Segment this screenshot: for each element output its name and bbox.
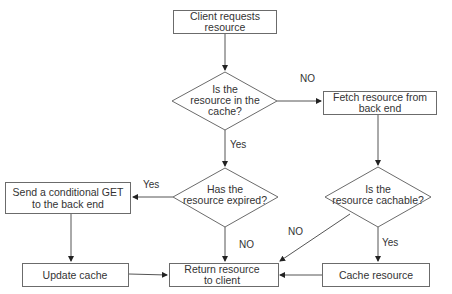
- edge-label-expired-yes: Yes: [143, 179, 159, 190]
- edge-label-incache-yes: Yes: [230, 139, 246, 150]
- edge-cachable-to-return: [280, 214, 350, 261]
- node-label-line: back end: [359, 102, 402, 114]
- flowchart-canvas: NO Yes Yes NO NO Yes Client requests res…: [0, 0, 452, 294]
- edges: NO Yes Yes NO NO Yes: [71, 33, 398, 275]
- node-label-line: resource: [205, 21, 246, 33]
- node-label-line: to client: [204, 274, 240, 286]
- node-label-line: resource cachable?: [332, 194, 424, 206]
- node-in-cache-decision: Is the resource in the cache?: [172, 72, 277, 130]
- node-label-line: cache?: [208, 105, 242, 117]
- node-cachable-decision: Is the resource cachable?: [325, 167, 431, 227]
- node-label-line: Send a conditional GET: [13, 186, 124, 198]
- node-update-cache: Update cache: [23, 264, 129, 287]
- edge-label-expired-no: NO: [239, 239, 254, 250]
- edge-update-to-return: [129, 274, 167, 275]
- node-label-line: Update cache: [43, 269, 108, 281]
- edge-label-incache-no: NO: [300, 73, 315, 84]
- node-label-line: Cache resource: [339, 269, 413, 281]
- node-client-requests: Client requests resource: [174, 10, 277, 34]
- node-fetch: Fetch resource from back end: [324, 91, 437, 115]
- node-expired-decision: Has the resource expired?: [173, 168, 278, 227]
- node-return-resource: Return resource to client: [170, 263, 279, 287]
- node-label-line: to the back end: [32, 198, 104, 210]
- edge-label-cachable-yes: Yes: [382, 237, 398, 248]
- node-label-line: resource expired?: [183, 194, 267, 206]
- node-conditional-get: Send a conditional GET to the back end: [6, 183, 131, 214]
- edge-label-cachable-no: NO: [288, 226, 303, 237]
- node-cache-resource: Cache resource: [323, 264, 430, 287]
